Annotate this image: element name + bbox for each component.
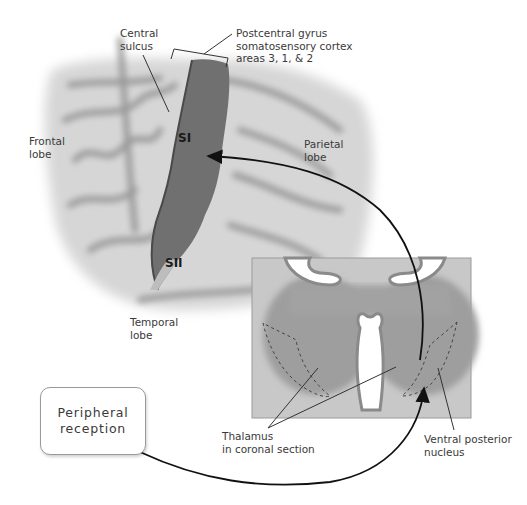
label-si: SI	[178, 132, 191, 145]
label-parietal-lobe: Parietal lobe	[304, 138, 343, 163]
label-frontal-lobe: Frontal lobe	[29, 135, 65, 160]
label-temporal-lobe: Temporal lobe	[130, 316, 178, 341]
label-postcentral-gyrus: Postcentral gyrus somatosensory cortex a…	[236, 27, 353, 65]
label-sii: SII	[165, 257, 183, 270]
label-ventral-posterior-nucleus: Ventral posterior nucleus	[424, 433, 512, 458]
peripheral-reception-label: Peripheral reception	[57, 405, 128, 437]
label-thalamus: Thalamus in coronal section	[222, 430, 315, 455]
label-central-sulcus: Central sulcus	[120, 27, 158, 52]
peripheral-reception-box: Peripheral reception	[40, 387, 146, 455]
